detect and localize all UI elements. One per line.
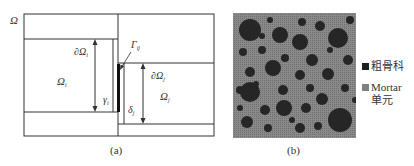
omega-label: Ω: [10, 14, 18, 26]
domain-j-label: Ωj: [160, 90, 170, 103]
caption-a: (a): [110, 144, 123, 157]
interface-bar: [117, 64, 120, 112]
domain-i-label: Ωi: [57, 75, 67, 88]
interface-label: Γij: [130, 39, 140, 51]
legend-item-aggregate: 粗骨科: [362, 60, 404, 73]
panel-a-diagram: [24, 14, 214, 136]
delta-j-label: δj: [128, 104, 135, 116]
caption-b: (b): [287, 144, 300, 157]
legend-label-aggregate: 粗骨科: [371, 60, 404, 73]
legend-label-mortar: Mortar 单元: [371, 81, 402, 107]
aggregate-swatch-icon: [362, 63, 369, 70]
gamma-i-label: γi: [103, 94, 109, 106]
panel-b-mesoscale-mesh: [233, 13, 358, 138]
boundary-i-label: ∂Ωi: [74, 46, 88, 58]
legend-item-mortar: Mortar 单元: [362, 81, 404, 107]
figure-canvas: Ω ∂Ωi Ωi γi Γij ∂Ωj Ωj δj (a): [0, 0, 414, 166]
panel-b-legend: 粗骨科 Mortar 单元: [362, 60, 404, 115]
mortar-swatch-icon: [362, 84, 369, 91]
boundary-j-label: ∂Ωj: [151, 70, 165, 82]
interface-leader: [121, 52, 131, 68]
